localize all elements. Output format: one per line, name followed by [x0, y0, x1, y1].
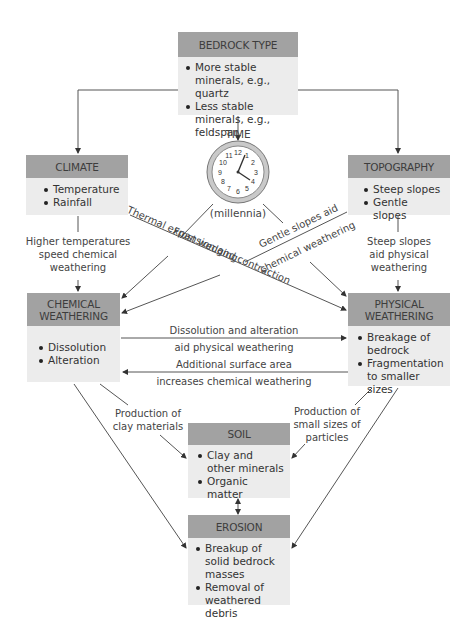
chemical-weathering-title: CHEMICAL WEATHERING	[27, 293, 120, 326]
label-line: Higher temperatures	[18, 235, 138, 248]
title-line: PHYSICAL	[374, 298, 423, 310]
list-item: Breakage of bedrock	[358, 331, 444, 357]
list-item: Steep slopes	[364, 183, 444, 196]
soil-list: Clay and other minerals Organic matter	[188, 445, 290, 507]
label-line: aid physical	[358, 248, 440, 261]
label-line: clay materials	[108, 420, 188, 433]
title-line: WEATHERING	[365, 310, 434, 322]
title-line: CHEMICAL	[47, 298, 100, 310]
label-line: Production of	[290, 405, 364, 418]
list-item: Clay and other minerals	[198, 449, 284, 475]
chemical-weathering-list: Dissolution Alteration	[27, 326, 120, 373]
chem-to-phys-label-2: aid physical weathering	[120, 341, 348, 354]
list-item: Organic matter	[198, 475, 284, 501]
svg-text:12: 12	[234, 149, 242, 156]
label-line: Steep slopes	[358, 235, 440, 248]
list-item: More stable minerals, e.g., quartz	[186, 61, 292, 100]
svg-text:6: 6	[236, 188, 240, 195]
label-line: speed chemical	[18, 248, 138, 261]
clay-materials-label: Production of clay materials	[108, 407, 188, 433]
svg-text:8: 8	[221, 178, 225, 185]
erosion-box: EROSION Breakup of solid bedrock masses …	[188, 515, 290, 605]
label-line: weathering	[358, 261, 440, 274]
erosion-title: EROSION	[188, 515, 290, 538]
list-item: Fragmentation to smaller sizes	[358, 357, 444, 396]
erosion-list: Breakup of solid bedrock masses Removal …	[188, 538, 290, 620]
list-item: Removal of weathered debris	[196, 581, 284, 620]
list-item: Gentle slopes	[364, 196, 444, 222]
time-subtitle: (millennia)	[205, 207, 271, 220]
svg-text:9: 9	[218, 169, 222, 176]
svg-text:11: 11	[225, 152, 232, 159]
topography-to-physical-label: Steep slopes aid physical weathering	[358, 235, 440, 274]
small-particles-label: Production of small sizes of particles	[290, 405, 364, 444]
list-item: Temperature	[44, 183, 122, 196]
label-line: particles	[290, 431, 364, 444]
topography-box: TOPOGRAPHY Steep slopes Gentle slopes	[348, 155, 450, 215]
list-item: Rainfall	[44, 196, 122, 209]
svg-text:10: 10	[219, 159, 227, 166]
soil-box: SOIL Clay and other minerals Organic mat…	[188, 423, 290, 498]
bedrock-type-title: BEDROCK TYPE	[178, 32, 298, 57]
list-item: Breakup of solid bedrock masses	[196, 542, 284, 581]
chemical-weathering-box: CHEMICAL WEATHERING Dissolution Alterati…	[27, 293, 120, 382]
climate-list: Temperature Rainfall	[26, 178, 128, 215]
bedrock-type-box: BEDROCK TYPE More stable minerals, e.g.,…	[178, 32, 298, 115]
svg-text:7: 7	[227, 185, 231, 192]
climate-box: CLIMATE Temperature Rainfall	[26, 155, 128, 215]
phys-to-chem-label-2: increases chemical weathering	[120, 375, 348, 388]
svg-text:5: 5	[245, 185, 249, 192]
climate-to-chemical-label: Higher temperatures speed chemical weath…	[18, 235, 138, 274]
svg-text:2: 2	[251, 159, 255, 166]
physical-weathering-list: Breakage of bedrock Fragmentation to sma…	[348, 326, 450, 402]
chem-to-phys-label-1: Dissolution and alteration	[120, 324, 348, 337]
topography-list: Steep slopes Gentle slopes	[348, 178, 450, 228]
svg-text:4: 4	[251, 178, 255, 185]
soil-title: SOIL	[188, 423, 290, 445]
label-line: weathering	[18, 261, 138, 274]
physical-weathering-title: PHYSICAL WEATHERING	[348, 293, 450, 326]
title-line: WEATHERING	[39, 310, 108, 322]
time-title: TIME	[218, 128, 258, 141]
svg-text:3: 3	[254, 169, 258, 176]
topography-title: TOPOGRAPHY	[348, 155, 450, 178]
physical-weathering-box: PHYSICAL WEATHERING Breakage of bedrock …	[348, 293, 450, 386]
svg-text:1: 1	[245, 152, 249, 159]
label-line: small sizes of	[290, 418, 364, 431]
list-item: Alteration	[39, 354, 114, 367]
phys-to-chem-label-1: Additional surface area	[120, 358, 348, 371]
list-item: Dissolution	[39, 341, 114, 354]
clock-icon: 1212 345 678 91011	[207, 141, 269, 203]
label-line: Production of	[108, 407, 188, 420]
climate-title: CLIMATE	[26, 155, 128, 178]
